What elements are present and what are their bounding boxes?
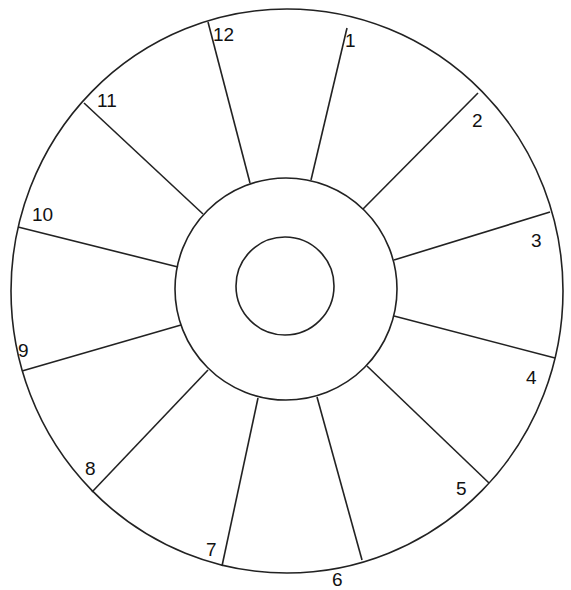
spoke-line [394,316,555,358]
spoke-line [317,397,362,560]
spoke-line [92,370,208,492]
house-label: 10 [32,205,53,224]
spoke-line [311,28,347,180]
house-label: 5 [456,479,467,498]
house-label: 1 [345,31,356,50]
spoke-line [367,366,489,483]
spoke-line [22,325,181,371]
house-label: 7 [206,540,217,559]
house-label: 9 [18,341,29,360]
house-label: 6 [332,570,343,589]
house-label: 3 [531,231,542,250]
house-label: 8 [85,459,96,478]
spoke-line [208,22,250,183]
spoke-line [18,227,178,267]
house-label: 4 [526,368,537,387]
spoke-line [222,398,258,566]
house-label: 12 [213,25,234,44]
spoke-line [394,212,550,260]
outer-circle [11,9,563,573]
spoke-line [84,103,203,214]
spoke-line [363,93,478,209]
house-label: 11 [97,91,117,110]
inner-circle [236,237,334,335]
middle-circle [175,178,397,400]
house-label: 2 [472,111,483,130]
